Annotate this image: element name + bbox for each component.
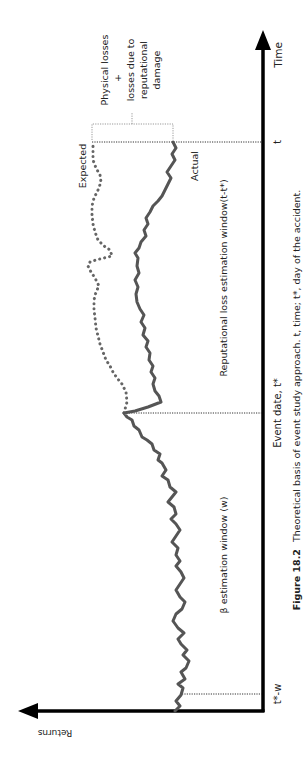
bracket-label-line4: reputational bbox=[138, 41, 149, 99]
actual-series-line bbox=[124, 142, 189, 711]
reference-lines bbox=[92, 142, 262, 694]
figure-caption: Figure 18.2 Theoretical basis of event s… bbox=[291, 190, 302, 611]
tick-event-label: Event date, t* bbox=[272, 378, 283, 448]
caption-text: Theoretical basis of event study approac… bbox=[291, 190, 302, 543]
event-study-figure: Time Returns t Event date, t* t*-w Expec… bbox=[0, 0, 306, 764]
bracket-label-line2: + bbox=[112, 74, 123, 82]
caption-label: Figure 18.2 bbox=[291, 549, 302, 610]
reputational-window-label: Reputational loss estimation window(t-t*… bbox=[218, 179, 229, 376]
bracket-label-line1: Physical losses bbox=[99, 35, 110, 106]
actual-label: Actual bbox=[189, 151, 200, 181]
loss-bracket bbox=[92, 112, 173, 140]
returns-axis-label: Returns bbox=[37, 728, 72, 738]
tick-t-label: t bbox=[271, 140, 283, 144]
axes bbox=[18, 30, 271, 719]
expected-label: Expected bbox=[77, 144, 88, 188]
tick-tw-label: t*-w bbox=[272, 684, 283, 705]
time-axis-arrow-icon bbox=[255, 30, 271, 50]
expected-series-line bbox=[88, 142, 127, 413]
bracket-label-line5: damage bbox=[151, 50, 162, 89]
time-axis-label: Time bbox=[272, 42, 284, 69]
returns-axis-arrow-icon bbox=[18, 703, 38, 719]
beta-window-label: β estimation window (w) bbox=[218, 497, 229, 614]
bracket-label-line3: losses due to bbox=[125, 39, 136, 102]
